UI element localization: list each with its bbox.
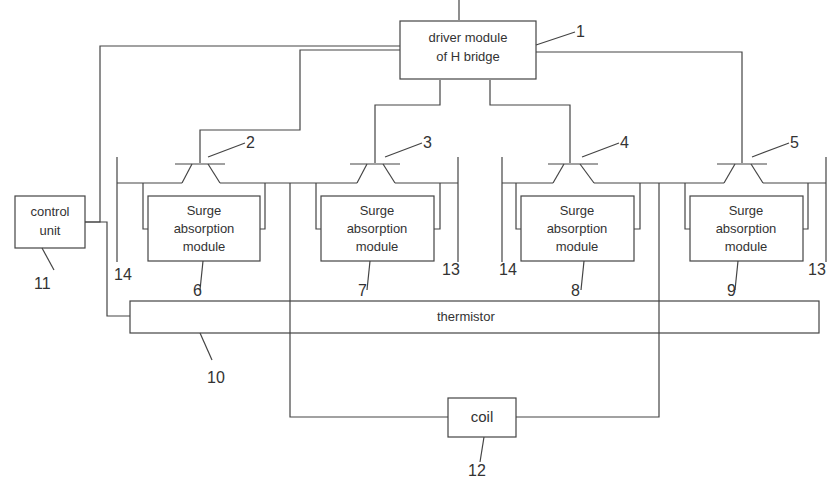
surge-9-line1: Surge [729, 203, 764, 218]
surge-9-line3: module [725, 239, 768, 254]
surge-6-line1: Surge [187, 203, 222, 218]
surge-module-9: Surge absorption module [690, 196, 803, 261]
surge-6-line2: absorption [174, 221, 235, 236]
ref-8: 8 [571, 282, 580, 299]
ref-6: 6 [193, 282, 202, 299]
ref-1: 1 [576, 23, 585, 40]
surge-9-line2: absorption [716, 221, 777, 236]
driver-label-line2: of H bridge [436, 49, 500, 64]
surge-7-line1: Surge [360, 203, 395, 218]
surge-7-line2: absorption [347, 221, 408, 236]
surge-module-8: Surge absorption module [521, 196, 634, 261]
ref-10: 10 [207, 369, 225, 386]
surge-8-line2: absorption [547, 221, 608, 236]
surge-7-line3: module [356, 239, 399, 254]
coil-block: coil [448, 398, 516, 437]
ref-14-middle: 14 [499, 261, 517, 278]
thermistor-label: thermistor [437, 309, 495, 324]
surge-6-line3: module [183, 239, 226, 254]
ref-11: 11 [34, 275, 51, 292]
surge-8-line3: module [556, 239, 599, 254]
ref-7: 7 [358, 282, 367, 299]
transistor-2 [175, 164, 225, 183]
transistor-4 [548, 164, 598, 183]
ref-5: 5 [790, 134, 799, 151]
surge-module-6: Surge absorption module [148, 196, 260, 261]
surge-module-7: Surge absorption module [321, 196, 434, 261]
surge-8-line1: Surge [560, 203, 595, 218]
control-label-line1: control [30, 204, 69, 219]
control-unit-block: control unit [15, 196, 85, 248]
control-label-line2: unit [40, 223, 61, 238]
ref-2: 2 [246, 134, 255, 151]
ref-4: 4 [620, 134, 629, 151]
thermistor-block: thermistor [130, 301, 819, 333]
circuit-diagram: driver module of H bridge control unit S… [0, 0, 833, 489]
transistor-3 [350, 164, 400, 183]
driver-module-block: driver module of H bridge [400, 21, 536, 79]
ref-3: 3 [423, 134, 432, 151]
ref-13-middle: 13 [442, 261, 460, 278]
transistor-5 [717, 164, 767, 183]
ref-9: 9 [727, 282, 736, 299]
ref-14-left: 14 [114, 266, 132, 283]
coil-label: coil [471, 408, 494, 425]
ref-13-right: 13 [808, 261, 826, 278]
ref-12: 12 [468, 462, 486, 479]
driver-label-line1: driver module [429, 30, 508, 45]
